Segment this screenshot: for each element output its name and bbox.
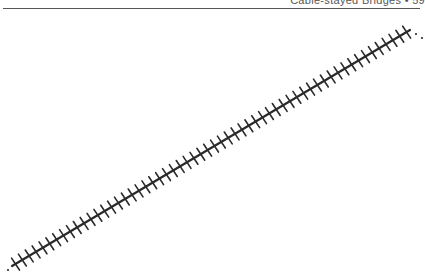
- bridge-diagram: [0, 0, 425, 274]
- diagonal-member-with-ticks: [7, 26, 423, 271]
